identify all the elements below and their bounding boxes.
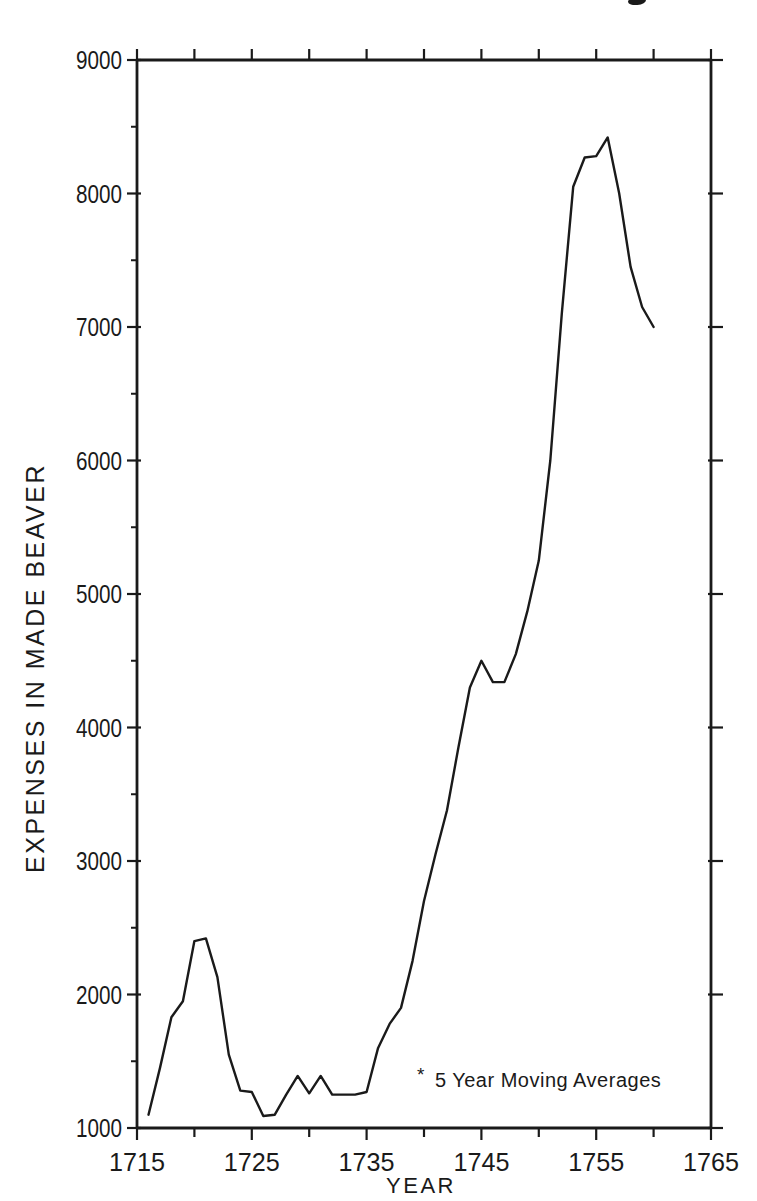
moving-average-annotation: *5 Year Moving Averages — [417, 1069, 661, 1092]
x-tick-label: 1745 — [453, 1147, 509, 1177]
y-tick-label: 7000 — [76, 312, 122, 342]
y-tick-label: 1000 — [76, 1113, 122, 1143]
asterisk-footnote-marker: * — [417, 1064, 425, 1086]
y-tick-label: 3000 — [76, 846, 122, 876]
y-tick-label: 2000 — [76, 980, 122, 1010]
y-tick-label: 4000 — [76, 713, 122, 743]
scanned-figure-page: 1000200030004000500060007000800090001715… — [0, 0, 757, 1201]
x-axis-title: YEAR — [386, 1173, 456, 1199]
y-tick-label: 8000 — [76, 179, 122, 209]
y-tick-label: 9000 — [76, 45, 122, 75]
x-tick-label: 1765 — [683, 1147, 739, 1177]
y-tick-label: 6000 — [76, 446, 122, 476]
x-tick-label: 1755 — [568, 1147, 624, 1177]
x-tick-label: 1715 — [109, 1147, 165, 1177]
x-tick-label: 1725 — [224, 1147, 280, 1177]
y-tick-label: 5000 — [76, 579, 122, 609]
y-axis-title: EXPENSES IN MADE BEAVER — [21, 463, 50, 873]
moving-average-annotation-text: 5 Year Moving Averages — [435, 1069, 661, 1091]
expenses-series-line — [149, 137, 654, 1116]
line-chart: 1000200030004000500060007000800090001715… — [0, 0, 757, 1201]
